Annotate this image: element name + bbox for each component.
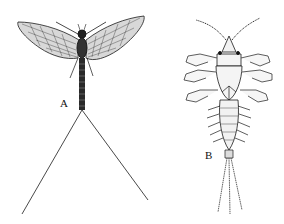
illustration-figure: A B (0, 0, 284, 224)
panel-label-b: B (205, 149, 212, 161)
adult-mayfly-drawing (18, 16, 148, 214)
mayfly-nymph-drawing (184, 18, 272, 214)
mayfly-illustrations (0, 0, 284, 224)
panel-label-a: A (60, 97, 68, 109)
